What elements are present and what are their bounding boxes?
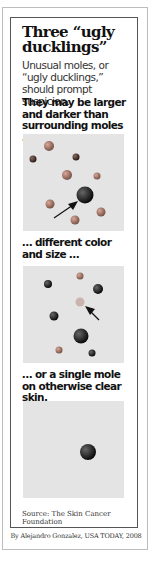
source-note: Source: The Skin Cancer Foundation — [22, 510, 152, 526]
panel-1-illustration — [23, 134, 124, 231]
moles-different-color — [23, 266, 124, 363]
panel-2-caption: … different color and size … — [22, 237, 134, 260]
mole — [94, 173, 101, 180]
mole — [77, 273, 84, 280]
mole — [97, 208, 106, 217]
mole — [30, 156, 37, 163]
mole — [46, 200, 55, 209]
moles-larger-darker — [23, 134, 124, 231]
mole-suspicious — [76, 298, 85, 307]
arrow-head — [85, 306, 95, 315]
mole-single — [23, 401, 124, 498]
mole-suspicious — [77, 187, 94, 204]
graphic-title: Three “ugly ducklings” — [22, 25, 132, 55]
mole — [89, 350, 96, 357]
mole-suspicious — [80, 444, 96, 460]
arrow-head — [68, 201, 78, 210]
panel-3-illustration — [23, 401, 124, 498]
mole — [44, 280, 52, 288]
mole — [74, 329, 89, 344]
mole — [71, 216, 80, 225]
mole — [93, 284, 103, 294]
mole — [62, 170, 72, 180]
credit-line: By Alejandro Gonzalez, USA TODAY, 2008 — [0, 532, 152, 540]
mole — [56, 347, 63, 354]
mole — [50, 312, 59, 321]
mole — [73, 154, 80, 161]
panel-2-illustration — [23, 266, 124, 363]
mole — [44, 141, 54, 151]
panel-3-caption: … or a single mole on otherwise clear sk… — [22, 369, 134, 404]
arrow-icon — [54, 205, 73, 218]
